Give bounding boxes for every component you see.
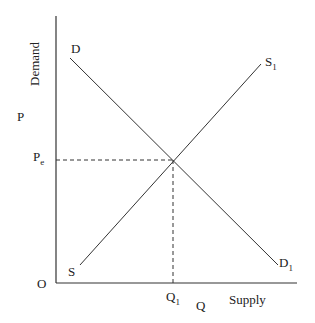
x-axis-title: Supply bbox=[229, 293, 266, 306]
demand-curve bbox=[70, 58, 278, 265]
y-axis-title: Demand bbox=[28, 42, 41, 86]
origin-label: O bbox=[37, 277, 46, 290]
equilibrium-quantity-label: Q1 bbox=[166, 290, 180, 307]
y-axis-label: P bbox=[17, 110, 24, 123]
supply-end-label: S1 bbox=[265, 55, 277, 72]
supply-curve bbox=[80, 64, 261, 265]
equilibrium-price-label: Pe bbox=[33, 150, 44, 167]
demand-end-label: D1 bbox=[279, 256, 293, 273]
demand-start-label: D bbox=[71, 42, 80, 55]
x-axis-label: Q bbox=[196, 299, 205, 312]
supply-start-label: S bbox=[68, 265, 75, 278]
diagram-canvas bbox=[0, 0, 315, 323]
